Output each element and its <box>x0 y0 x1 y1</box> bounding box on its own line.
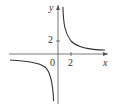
y-axis-arrow-icon <box>56 5 60 10</box>
x-tick-label: 2 <box>68 58 73 68</box>
y-tick-label: 2 <box>48 35 53 45</box>
x-axis-label: x <box>103 58 107 68</box>
curve-right-branch <box>63 7 105 50</box>
origin-label: 0 <box>50 58 55 68</box>
x-axis-arrow-icon <box>103 52 108 56</box>
hyperbola-graph <box>0 0 114 112</box>
y-axis-label: y <box>49 3 53 13</box>
curve-left-branch <box>10 60 54 101</box>
